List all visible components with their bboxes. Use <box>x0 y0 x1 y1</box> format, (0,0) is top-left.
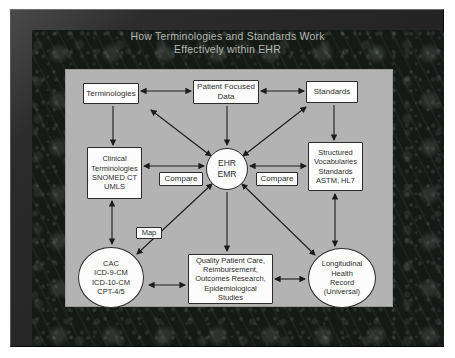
arrow-ehr-emr-to-cac-codes <box>137 184 212 254</box>
slide: How Terminologies and Standards Work Eff… <box>0 0 455 358</box>
node-clinical-terminologies: Clinical Terminologies SNOMED CT UMLS <box>87 147 142 199</box>
arrow-terminologies-to-ehr-emr <box>151 110 211 156</box>
node-terminologies: Terminologies <box>83 83 139 104</box>
node-map: Map <box>136 227 162 239</box>
diagram-panel: TerminologiesPatient Focused DataStandar… <box>65 69 393 307</box>
slide-title: How Terminologies and Standards Work Eff… <box>0 30 455 56</box>
node-ehr-emr: EHR EMR <box>206 148 248 190</box>
arrow-ehr-emr-to-longitudinal-record <box>242 184 315 255</box>
node-standards: Standards <box>306 81 358 103</box>
node-compare-left: Compare <box>159 172 203 186</box>
node-quality-outcomes: Quality Patient Care, Reimbursement, Out… <box>188 254 273 304</box>
arrow-standards-to-ehr-emr <box>243 107 306 156</box>
node-compare-right: Compare <box>256 172 298 186</box>
node-longitudinal-record: Longitudinal Health Record (Universal) <box>308 248 376 308</box>
node-patient-focused-data: Patient Focused Data <box>193 80 259 104</box>
node-cac-codes: CAC ICD-9-CM ICD-10-CM CPT-4/5 <box>78 247 144 308</box>
node-structured-vocabularies: Structured Vocabularies Standards ASTM, … <box>308 142 363 191</box>
